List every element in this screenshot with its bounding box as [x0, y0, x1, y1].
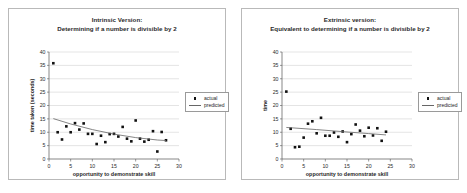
svg-text:opportunity to demonstrate ski: opportunity to demonstrate skill [73, 171, 156, 177]
legend-row-actual: actual [421, 95, 458, 102]
svg-text:30: 30 [273, 76, 279, 82]
svg-text:15: 15 [273, 116, 279, 122]
svg-text:30: 30 [409, 163, 415, 169]
svg-text:15: 15 [111, 163, 117, 169]
svg-text:10: 10 [273, 129, 279, 135]
svg-text:0: 0 [281, 163, 284, 169]
legend-label-predicted: predicted [204, 102, 225, 109]
figure-page: Intrinsic Version: Determining if a numb… [0, 0, 467, 193]
legend-extrinsic: actual predicted [418, 92, 462, 112]
legend-label-actual: actual [437, 95, 450, 102]
svg-text:5: 5 [69, 163, 72, 169]
svg-text:10: 10 [40, 129, 46, 135]
svg-text:35: 35 [273, 62, 279, 68]
svg-text:10: 10 [322, 163, 328, 169]
svg-text:10: 10 [89, 163, 95, 169]
svg-text:40: 40 [273, 49, 279, 55]
svg-text:5: 5 [43, 142, 46, 148]
svg-text:opportunity to demonstrate ski: opportunity to demonstrate skill [306, 171, 389, 177]
svg-text:20: 20 [366, 163, 372, 169]
svg-text:5: 5 [276, 142, 279, 148]
svg-text:30: 30 [40, 76, 46, 82]
legend-label-predicted: predicted [437, 102, 458, 109]
legend-row-predicted: predicted [421, 102, 458, 109]
legend-row-actual: actual [188, 95, 225, 102]
svg-text:30: 30 [176, 163, 182, 169]
svg-text:40: 40 [40, 49, 46, 55]
svg-text:15: 15 [344, 163, 350, 169]
legend-intrinsic: actual predicted [185, 92, 229, 112]
svg-text:5: 5 [302, 163, 305, 169]
svg-text:20: 20 [133, 163, 139, 169]
legend-label-actual: actual [204, 95, 217, 102]
svg-text:25: 25 [273, 89, 279, 95]
square-marker-icon [188, 97, 202, 100]
svg-text:0: 0 [43, 156, 46, 162]
chart-panel-extrinsic: Extrinsic version: Equivalent to determi… [241, 8, 459, 180]
legend-row-predicted: predicted [188, 102, 225, 109]
svg-text:25: 25 [154, 163, 160, 169]
square-marker-icon [421, 97, 435, 100]
svg-text:0: 0 [276, 156, 279, 162]
svg-text:0: 0 [48, 163, 51, 169]
svg-text:35: 35 [40, 62, 46, 68]
svg-text:20: 20 [40, 102, 46, 108]
svg-text:25: 25 [40, 89, 46, 95]
svg-text:time: time [262, 100, 268, 111]
svg-text:15: 15 [40, 116, 46, 122]
svg-text:time taken (seconds): time taken (seconds) [29, 78, 35, 132]
svg-text:20: 20 [273, 102, 279, 108]
svg-text:25: 25 [387, 163, 393, 169]
chart-panel-intrinsic: Intrinsic Version: Determining if a numb… [8, 8, 226, 180]
trend-line-icon [421, 105, 435, 106]
trend-line-icon [188, 105, 202, 106]
